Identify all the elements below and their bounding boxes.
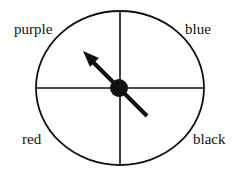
label-blue: blue xyxy=(185,22,211,37)
label-red: red xyxy=(22,132,41,147)
spinner-center-dot xyxy=(110,79,128,97)
label-black: black xyxy=(193,132,225,147)
label-purple: purple xyxy=(14,22,52,37)
